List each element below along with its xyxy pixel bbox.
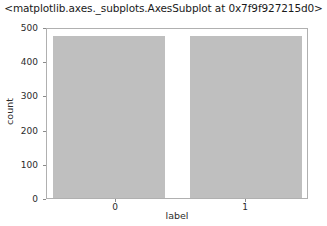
bars-container: [47, 29, 307, 198]
matplotlib-figure: <matplotlib.axes._subplots.AxesSubplot a…: [0, 0, 327, 226]
bar-category-0: [53, 36, 165, 198]
y-tick-label-0: 0: [4, 195, 38, 204]
y-tick-label-500: 500: [4, 24, 38, 33]
bar-category-1: [190, 36, 302, 198]
y-tick-mark-0: [43, 199, 46, 200]
chart-title: <matplotlib.axes._subplots.AxesSubplot a…: [0, 2, 327, 15]
y-tick-label-400: 400: [4, 58, 38, 67]
y-axis-label: count: [4, 82, 15, 142]
x-tick-mark-0: [115, 199, 116, 202]
y-tick-label-100: 100: [4, 161, 38, 170]
x-tick-mark-1: [245, 199, 246, 202]
x-axis-label: label: [46, 210, 308, 221]
plot-axes: [46, 28, 308, 199]
